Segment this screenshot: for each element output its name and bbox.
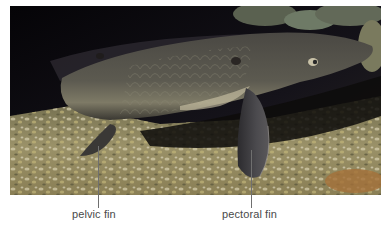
- pelvic-fin-leader-line: [98, 146, 99, 208]
- pelvic-fin-label: pelvic fin: [72, 208, 116, 220]
- pectoral-fin-leader-line: [251, 150, 252, 208]
- lungfish-photo: [10, 6, 381, 195]
- pectoral-fin-label: pectoral fin: [222, 208, 277, 220]
